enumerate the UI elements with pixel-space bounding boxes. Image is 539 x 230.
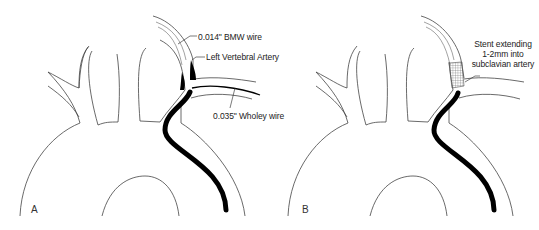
panel-letter-a: A: [31, 204, 38, 215]
stent: [449, 62, 464, 88]
stent-label-line-3: subclavian artery: [467, 59, 539, 69]
medical-figure: 0.014" BMW wire Left Vertebral Artery 0.…: [0, 0, 539, 230]
label-wholey-wire: 0.035" Wholey wire: [213, 111, 284, 121]
panel-letter-b: B: [302, 204, 309, 215]
label-stent-description: Stent extending 1-2mm into subclavian ar…: [467, 39, 539, 69]
label-bmw-wire: 0.014" BMW wire: [198, 32, 262, 42]
stent-label-line-2: 1-2mm into: [467, 49, 539, 59]
label-left-vertebral-artery: Left Vertebral Artery: [206, 52, 279, 62]
stent-label-line-1: Stent extending: [467, 39, 539, 49]
